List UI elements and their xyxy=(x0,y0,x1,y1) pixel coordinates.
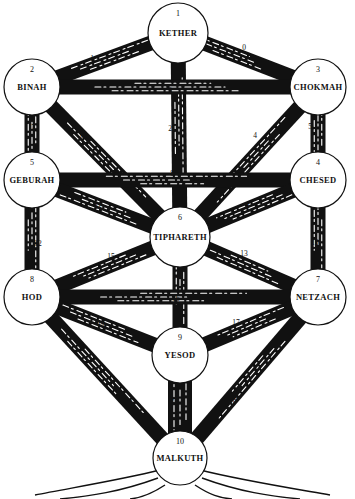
path-number-label: 10 xyxy=(311,238,319,247)
sephira-binah: 2BINAH xyxy=(4,59,60,115)
path-number-label: 3 xyxy=(168,86,172,95)
path-number-label: 14 xyxy=(172,272,180,281)
sephira-kether: 1KETHER xyxy=(148,3,208,63)
path-number-label: 21 xyxy=(170,396,178,405)
sephira-yesod: 9YESOD xyxy=(152,327,208,383)
sephira-name: CHOKMAH xyxy=(294,82,343,92)
root-center-right xyxy=(195,485,232,499)
path-number-label: 13 xyxy=(240,249,248,258)
path-number-label: 5 xyxy=(308,122,312,131)
path-number-label: 11 xyxy=(94,202,101,211)
sephira-tiphareth: 6TIPHARETH xyxy=(150,207,210,267)
sephira-number: 7 xyxy=(316,275,320,284)
sephira-name: KETHER xyxy=(159,28,198,38)
sephira-malkuth: 10MALKUTH xyxy=(153,431,207,485)
path-number-label: 2 xyxy=(168,124,172,133)
path-number-label: 15 xyxy=(107,252,115,261)
sephira-geburah: 5GEBURAH xyxy=(4,152,60,208)
sephira-hod: 8HOD xyxy=(4,269,60,325)
sephira-name: MALKUTH xyxy=(157,453,204,463)
sephira-number: 8 xyxy=(30,275,34,284)
sephira-name: NETZACH xyxy=(296,292,340,302)
sephira-number: 3 xyxy=(316,65,320,74)
tree-of-life-diagram: 0123456789101112131415161718192021 1KETH… xyxy=(0,0,355,499)
sephira-number: 6 xyxy=(178,213,182,222)
path-number-label: 4 xyxy=(253,131,257,140)
sephira-name: TIPHARETH xyxy=(153,232,207,242)
sephira-number: 9 xyxy=(178,333,182,342)
sephira-netzach: 7NETZACH xyxy=(290,269,346,325)
sephira-chesed: 4CHESED xyxy=(290,152,346,208)
root-center-left xyxy=(130,485,165,499)
path-number-label: 18 xyxy=(229,396,237,405)
sephira-name: BINAH xyxy=(17,82,46,92)
sephira-name: YESOD xyxy=(165,350,196,360)
sephira-name: HOD xyxy=(22,292,42,302)
path-number-label: 19 xyxy=(97,320,105,329)
path-number-label: 16 xyxy=(172,294,180,303)
path-number-label: 17 xyxy=(232,318,240,327)
path-3 xyxy=(32,83,318,91)
path-number-label: 1 xyxy=(90,54,94,63)
sephira-number: 1 xyxy=(176,9,180,18)
sephira-number: 2 xyxy=(30,65,34,74)
path-number-label: 8 xyxy=(170,169,174,178)
sephira-name: GEBURAH xyxy=(9,175,54,185)
root-right xyxy=(200,470,330,495)
sephira-chokmah: 3CHOKMAH xyxy=(290,59,346,115)
path-number-label: 12 xyxy=(34,239,42,248)
root-left xyxy=(35,470,160,495)
sephira-number: 5 xyxy=(30,158,34,167)
path-number-label: 7 xyxy=(31,123,35,132)
path-2 xyxy=(175,33,183,237)
path-number-label: 0 xyxy=(242,43,246,52)
path-number-label: 9 xyxy=(245,202,249,211)
path-number-label: 20 xyxy=(124,398,132,407)
path-8 xyxy=(32,176,318,184)
sephira-name: CHESED xyxy=(300,175,337,185)
sephira-number: 10 xyxy=(176,437,184,446)
path-number-label: 6 xyxy=(80,131,84,140)
sephira-number: 4 xyxy=(316,158,320,167)
